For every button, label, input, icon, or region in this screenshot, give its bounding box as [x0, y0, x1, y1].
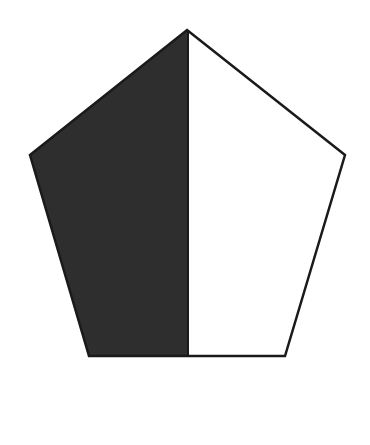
shaded-left-half — [30, 30, 188, 356]
pentagon-figure — [0, 0, 370, 445]
unshaded-right-half — [188, 30, 345, 356]
